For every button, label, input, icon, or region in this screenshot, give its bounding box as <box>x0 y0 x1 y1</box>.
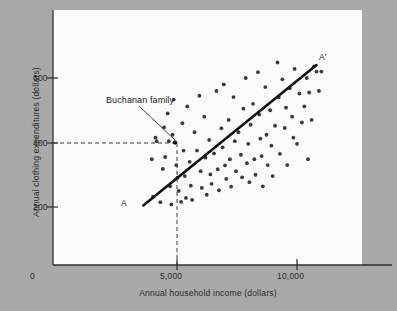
buchanan-guide-lines <box>53 143 177 265</box>
scatter-point <box>266 163 270 167</box>
scatter-point <box>232 95 236 99</box>
scatter-point <box>228 157 232 161</box>
scatter-point <box>189 184 193 188</box>
scatter-point <box>248 180 252 184</box>
scatter-point <box>184 196 188 200</box>
scatter-point <box>198 94 202 98</box>
scatter-point <box>161 167 165 171</box>
buchanan-family-annotation: Buchanan family <box>106 95 174 105</box>
trendline-start-label: A <box>121 198 127 208</box>
scatter-point <box>200 186 204 190</box>
scatter-point <box>199 169 203 173</box>
scatter-point <box>166 112 170 116</box>
scatter-point <box>254 173 258 177</box>
scatter-point <box>217 188 221 192</box>
scatter-point <box>265 133 269 137</box>
scatter-point <box>167 139 171 143</box>
trendline-end-label: A' <box>319 52 326 62</box>
scatter-point <box>216 167 220 171</box>
scatter-point <box>263 85 267 89</box>
scatter-point <box>155 139 159 143</box>
scatter-point <box>219 126 223 130</box>
x-tick-label-10000: 10,000 <box>277 271 304 281</box>
scatter-point <box>280 77 284 81</box>
scatter-point <box>302 104 306 108</box>
scatter-point <box>244 76 248 80</box>
scatter-point <box>193 130 197 134</box>
scatter-point <box>305 76 309 80</box>
scatter-point <box>205 193 209 197</box>
scatter-point <box>212 152 216 156</box>
scatter-point <box>283 126 287 130</box>
scatter-point <box>284 106 288 110</box>
scatter-point <box>241 107 245 111</box>
y-tick-label-200: 200 <box>33 202 48 212</box>
scatter-point <box>154 136 158 140</box>
scatter-point <box>240 175 244 179</box>
scatter-point <box>207 138 211 142</box>
scatter-chart-figure: Annual clothing expenditures (dollars) A… <box>0 0 397 311</box>
scatter-point <box>320 70 324 74</box>
scatter-point <box>229 185 233 189</box>
scatter-point <box>188 160 192 164</box>
scatter-point <box>215 89 219 93</box>
scatter-point <box>260 154 264 158</box>
scatter-point <box>245 161 249 165</box>
scatter-point <box>273 124 277 128</box>
scatter-point <box>177 189 181 193</box>
scatter-point <box>174 163 178 167</box>
scatter-point <box>223 164 227 168</box>
scatter-point <box>190 198 194 202</box>
scatter-point <box>306 157 310 161</box>
scatter-point <box>233 139 237 143</box>
scatter-point <box>195 149 199 153</box>
regression-line <box>143 65 316 205</box>
scatter-point <box>202 115 206 119</box>
trend-line-AAprime <box>143 65 316 205</box>
annotation-leader-line <box>139 106 175 140</box>
scatter-point <box>179 200 183 204</box>
scatter-point <box>300 121 304 125</box>
axes <box>53 10 392 265</box>
chart-canvas <box>0 0 397 311</box>
scatter-point <box>158 200 162 204</box>
scatter-point <box>315 70 319 74</box>
scatter-point <box>185 104 189 108</box>
scatter-point <box>224 177 228 181</box>
scatter-point <box>169 203 173 207</box>
tick-marks <box>47 78 297 270</box>
scatter-point <box>222 83 226 87</box>
buchanan-family-point <box>173 140 177 144</box>
scatter-point <box>227 118 231 122</box>
scatter-point <box>276 61 280 65</box>
x-tick-label-5000: 5,000 <box>160 271 182 281</box>
scatter-points <box>150 61 323 207</box>
scatter-point <box>182 149 186 153</box>
x-tick-label-0: 0 <box>30 271 35 281</box>
scatter-point <box>239 153 243 157</box>
scatter-point <box>295 142 299 146</box>
scatter-point <box>256 70 260 74</box>
scatter-point <box>208 173 212 177</box>
scatter-point <box>285 163 289 167</box>
buchanan-leader-line <box>139 106 175 140</box>
scatter-point <box>290 115 294 119</box>
scatter-point <box>180 121 184 125</box>
scatter-point <box>163 155 167 159</box>
x-axis-title: Annual household income (dollars) <box>98 288 318 298</box>
scatter-point <box>310 118 314 122</box>
scatter-point <box>251 102 255 106</box>
scatter-point <box>317 89 321 93</box>
scatter-point <box>252 157 256 161</box>
scatter-point <box>221 145 225 149</box>
scatter-point <box>268 108 272 112</box>
scatter-point <box>278 152 282 156</box>
scatter-point <box>261 184 265 188</box>
scatter-point <box>246 142 250 146</box>
scatter-point <box>307 91 311 95</box>
scatter-point <box>150 157 154 161</box>
scatter-point <box>269 144 273 148</box>
scatter-point <box>293 67 297 71</box>
y-tick-label-400: 400 <box>33 138 48 148</box>
scatter-point <box>298 92 302 96</box>
